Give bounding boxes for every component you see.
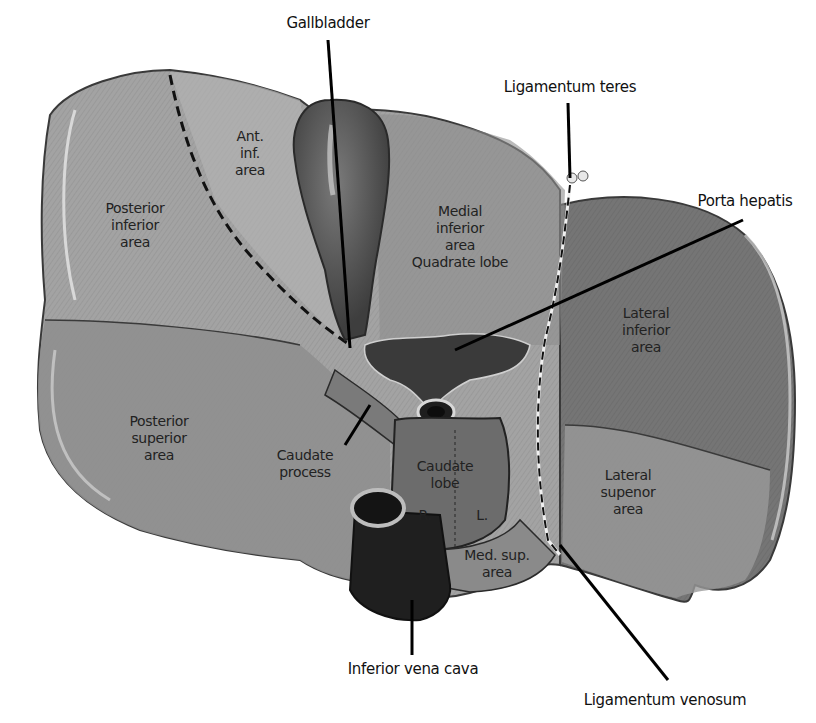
label-medial-inferior-area: Medial inferior area Quadrate lobe: [400, 203, 520, 271]
label-ligamentum-venosum: Ligamentum venosum: [570, 691, 760, 709]
label-porta-hepatis: Porta hepatis: [685, 192, 805, 210]
liver-illustration: [0, 0, 816, 723]
label-caudate-right: R.: [415, 507, 435, 524]
label-posterior-inferior-area: Posterior inferior area: [90, 200, 180, 251]
label-ligamentum-teres: Ligamentum teres: [490, 78, 650, 96]
label-inferior-vena-cava: Inferior vena cava: [338, 660, 488, 678]
label-caudate-lobe: Caudate lobe: [410, 458, 480, 492]
label-med-sup-area: Med. sup. area: [452, 547, 542, 581]
label-ant-inf-area: Ant. inf. area: [225, 128, 275, 179]
label-caudate-process: Caudate process: [265, 447, 345, 481]
label-lateral-inferior-area: Lateral inferior area: [606, 305, 686, 356]
label-gallbladder: Gallbladder: [278, 14, 378, 32]
label-posterior-superior-area: Posterior superior area: [114, 413, 204, 464]
label-lateral-superior-area: Lateral supenor area: [588, 467, 668, 518]
label-caudate-left: L.: [472, 507, 492, 524]
left-lobe: [560, 197, 795, 602]
leader-ligamentum-teres: [568, 103, 570, 178]
